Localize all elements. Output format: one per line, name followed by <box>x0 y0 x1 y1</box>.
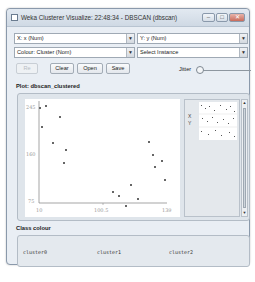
select-instance-value: Select Instance <box>140 49 178 55</box>
clear-button[interactable]: Clear <box>50 63 74 74</box>
scrollbar-thumb[interactable] <box>243 108 246 208</box>
reset-button[interactable]: Re <box>16 63 38 74</box>
jitter-slider-handle[interactable] <box>196 66 204 74</box>
chevron-down-icon: ▼ <box>239 48 247 57</box>
legend-item-cluster2[interactable]: cluster2 <box>169 249 193 255</box>
jitter-label: Jitter <box>179 66 191 72</box>
open-button[interactable]: Open <box>77 63 103 74</box>
svg-text:139: 139 <box>162 207 172 213</box>
plot-title: Plot: dbscan_clustered <box>16 83 80 89</box>
class-colour-title: Class colour <box>16 225 51 231</box>
plot-panel: 245 160 75 10 100.5 139 <box>17 93 250 221</box>
window-title: Weka Clusterer Visualize: 22:48:34 - DBS… <box>21 14 177 21</box>
attribute-bar-thumbnails[interactable] <box>199 102 237 140</box>
select-instance-dropdown[interactable]: Select Instance ▼ <box>137 47 248 58</box>
svg-text:160: 160 <box>26 151 36 157</box>
close-button[interactable]: ✕ <box>229 13 245 22</box>
save-button[interactable]: Save <box>106 63 130 74</box>
scatter-plot[interactable]: 245 160 75 10 100.5 139 <box>25 99 180 217</box>
svg-text:245: 245 <box>26 104 36 110</box>
svg-text:10: 10 <box>36 207 42 213</box>
legend-item-cluster1[interactable]: cluster1 <box>97 249 121 255</box>
x-axis-select[interactable]: X: x (Num) ▼ <box>14 33 135 44</box>
legend-item-cluster0[interactable]: cluster0 <box>23 249 47 255</box>
colour-select[interactable]: Colour: Cluster (Nom) ▼ <box>14 47 135 58</box>
y-axis-select-value: Y: y (Num) <box>140 35 166 41</box>
class-colour-legend: cluster0 cluster1 cluster2 <box>17 235 250 267</box>
scroll-up-icon[interactable]: ▲ <box>242 100 247 106</box>
chevron-down-icon: ▼ <box>239 34 247 43</box>
side-x-label: X <box>188 113 191 119</box>
side-y-label: Y <box>188 120 191 126</box>
chevron-down-icon: ▼ <box>126 34 134 43</box>
scatter-plot-svg: 245 160 75 10 100.5 139 <box>25 99 180 217</box>
attribute-strips-svg <box>199 102 237 140</box>
scroll-down-icon[interactable]: ▼ <box>242 210 247 216</box>
minimize-button[interactable]: – <box>202 13 215 22</box>
jitter-slider-track[interactable] <box>199 70 251 71</box>
svg-text:75: 75 <box>28 198 34 204</box>
svg-text:100.5: 100.5 <box>94 207 108 213</box>
attribute-bars-panel: X Y <box>184 99 240 217</box>
x-axis-select-value: X: x (Num) <box>17 35 44 41</box>
title-bar[interactable]: Weka Clusterer Visualize: 22:48:34 - DBS… <box>7 9 249 27</box>
vertical-scrollbar[interactable]: ▲ ▼ <box>241 99 248 217</box>
chevron-down-icon: ▼ <box>126 48 134 57</box>
colour-select-value: Colour: Cluster (Nom) <box>17 49 71 55</box>
maximize-button[interactable]: □ <box>216 13 228 22</box>
clusterer-visualize-window: Weka Clusterer Visualize: 22:48:34 - DBS… <box>6 8 250 265</box>
weka-app-icon <box>11 14 18 21</box>
y-axis-select[interactable]: Y: y (Num) ▼ <box>137 33 248 44</box>
